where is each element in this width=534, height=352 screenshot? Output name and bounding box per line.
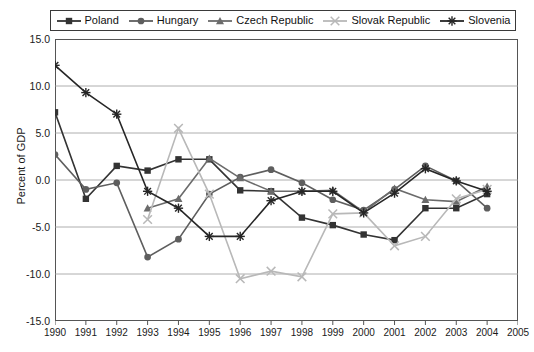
series-slovak-republic [143,124,491,283]
legend-swatch-triangle-icon [207,15,233,27]
marker-star [112,110,121,119]
marker-star [452,176,461,185]
y-tick-label: -15.0 [6,316,50,326]
marker-circle [83,186,90,193]
marker-star [205,232,214,241]
legend-swatch-x-icon [322,15,348,27]
legend-label: Slovenia [468,15,510,26]
marker-star [174,204,183,213]
y-tick-label: 5.0 [6,128,50,138]
marker-x [174,124,183,133]
x-tick-label: 2005 [498,328,534,338]
marker-star [390,189,399,198]
legend-item-czech-republic[interactable]: Czech Republic [207,15,313,27]
legend-label: Czech Republic [236,15,313,26]
marker-square [299,214,305,220]
marker-square [55,109,58,115]
marker-x [143,215,152,224]
marker-star [482,187,491,196]
y-axis-label: Percent of GDP [15,106,27,226]
marker-square [330,222,336,228]
marker-star [81,88,90,97]
y-tick-label: 10.0 [6,81,50,91]
marker-circle [175,236,182,243]
marker-circle [268,166,275,173]
legend-label: Hungary [157,15,199,26]
marker-circle [299,179,306,186]
legend-swatch-square-icon [56,15,82,27]
series-line [148,128,488,278]
legend-item-poland[interactable]: Poland [56,15,119,27]
marker-star [448,16,457,25]
series-line [148,158,488,212]
legend-swatch-circle-icon [128,15,154,27]
legend-item-hungary[interactable]: Hungary [128,15,199,27]
marker-circle [144,254,151,261]
legend-item-slovak-republic[interactable]: Slovak Republic [322,15,430,27]
y-tick-label: 0.0 [6,175,50,185]
plot-canvas [55,39,518,327]
marker-square [83,196,89,202]
marker-square [422,205,428,211]
marker-square [114,163,120,169]
marker-circle [329,196,336,203]
marker-circle [137,17,144,24]
legend-label: Slovak Republic [351,15,430,26]
marker-star [297,187,306,196]
chart-legend: PolandHungaryCzech RepublicSlovak Republ… [50,10,516,31]
marker-circle [113,179,120,186]
marker-square [453,205,459,211]
marker-square [65,17,71,23]
series-line [55,112,487,240]
legend-label: Poland [85,15,119,26]
marker-star [359,208,368,217]
legend-swatch-star-icon [439,15,465,27]
marker-square [144,167,150,173]
y-tick-label: -10.0 [6,269,50,279]
series-poland [55,109,490,243]
marker-square [175,156,181,162]
marker-star [328,187,337,196]
y-tick-label: 15.0 [6,34,50,44]
series-slovenia [55,61,492,241]
marker-square [360,231,366,237]
marker-star [143,187,152,196]
marker-star [421,164,430,173]
marker-star [266,196,275,205]
marker-square [237,187,243,193]
marker-circle [484,205,491,212]
legend-item-slovenia[interactable]: Slovenia [439,15,510,27]
y-tick-label: -5.0 [6,222,50,232]
marker-star [236,232,245,241]
marker-x [421,232,430,241]
